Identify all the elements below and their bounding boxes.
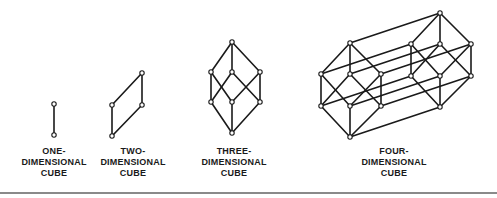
label-line: DIMENSIONAL — [184, 157, 284, 168]
label-line: CUBE — [344, 168, 444, 179]
label-four-dimensional-cube: FOUR- DIMENSIONAL CUBE — [344, 146, 444, 179]
three-dimensional-cube — [209, 40, 262, 135]
four-dimensional-cube — [319, 11, 473, 139]
label-line: DIMENSIONAL — [83, 157, 183, 168]
label-line: CUBE — [184, 168, 284, 179]
two-dimensional-cube — [110, 71, 144, 138]
label-two-dimensional-cube: TWO- DIMENSIONAL CUBE — [83, 146, 183, 179]
bottom-rule — [0, 192, 497, 194]
label-line: CUBE — [83, 168, 183, 179]
label-line: THREE- — [184, 146, 284, 157]
label-line: DIMENSIONAL — [344, 157, 444, 168]
label-line: FOUR- — [344, 146, 444, 157]
label-line: TWO- — [83, 146, 183, 157]
one-dimensional-cube — [52, 102, 56, 137]
label-three-dimensional-cube: THREE- DIMENSIONAL CUBE — [184, 146, 284, 179]
